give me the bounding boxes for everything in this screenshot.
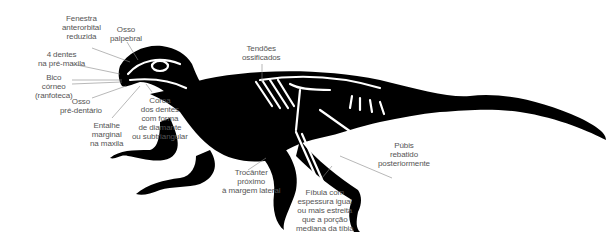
label-line: Bico (35, 73, 73, 82)
label-line: ou mais estreita (296, 206, 354, 215)
label-line: de diamante (132, 123, 188, 132)
label-fibula: Fíbula com espessura igual ou mais estre… (296, 188, 354, 233)
label-line: ou subtriangular (132, 132, 188, 141)
label-fenestra-anterorbital: Fenestra anterorbital reduzida (62, 14, 101, 41)
label-trocanter: Trocânter próximo à margem lateral (222, 168, 280, 195)
label-line: espessura igual (296, 197, 354, 206)
label-line: Fíbula com (296, 188, 354, 197)
label-line: à margem lateral (222, 186, 280, 195)
label-line: córneo (35, 82, 73, 91)
label-bico-corneo: Bico córneo (ranfoteca) (35, 73, 73, 100)
label-line: 4 dentes (38, 50, 85, 59)
label-line: reduzida (62, 32, 101, 41)
label-line: mediana da tíbia (296, 224, 354, 233)
label-entalhe-marginal: Entalhe marginal na maxila (90, 121, 123, 148)
label-line: Entalhe (90, 121, 123, 130)
label-line: Fenestra (62, 14, 101, 23)
label-line: que a porção (296, 215, 354, 224)
label-line: Osso (110, 25, 142, 34)
label-line: palpebral (110, 34, 142, 43)
label-line: pré-dentário (60, 106, 102, 115)
label-line: na maxila (90, 139, 123, 148)
label-pubis: Púbis rebatido posteriormente (378, 141, 430, 168)
label-dentes-pre-maxila: 4 dentes na pré-maxila (38, 50, 85, 68)
label-line: Osso (60, 97, 102, 106)
label-line: na pré-maxila (38, 59, 85, 68)
label-line: ossificados (242, 53, 280, 62)
label-line: anterorbital (62, 23, 101, 32)
label-coroa-dentes: Coroa dos dentes com forma de diamante o… (132, 96, 188, 141)
label-osso-pre-dentario: Osso pré-dentário (60, 97, 102, 115)
label-line: Púbis (378, 141, 430, 150)
label-tendoes-ossificados: Tendões ossificados (242, 44, 280, 62)
label-line: marginal (90, 130, 123, 139)
label-line: dos dentes (132, 105, 188, 114)
label-line: Tendões (242, 44, 280, 53)
label-osso-palpebral: Osso palpebral (110, 25, 142, 43)
label-line: Trocânter (222, 168, 280, 177)
label-line: posteriormente (378, 159, 430, 168)
label-line: Coroa (132, 96, 188, 105)
label-line: rebatido (378, 150, 430, 159)
label-line: próximo (222, 177, 280, 186)
label-line: com forma (132, 114, 188, 123)
